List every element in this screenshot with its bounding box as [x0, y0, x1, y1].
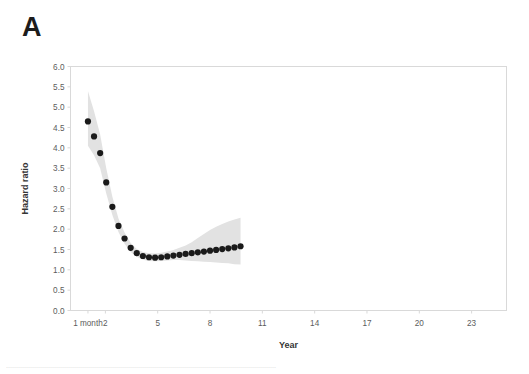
data-point: [140, 253, 146, 259]
data-point: [176, 252, 182, 258]
x-tick-label: 8: [208, 319, 213, 328]
y-tick-label: 4.0: [53, 144, 65, 153]
data-point: [164, 253, 170, 259]
caption-text: ........................................…: [6, 362, 523, 370]
y-tick-label: 0.5: [53, 286, 65, 295]
data-point: [134, 250, 140, 256]
x-axis-title: Year: [279, 340, 299, 350]
y-tick-label: 6.0: [53, 63, 65, 72]
data-point: [146, 254, 152, 260]
y-axis: 0.00.51.01.52.02.53.03.54.04.55.05.56.0H…: [20, 63, 71, 316]
x-tick-label: 1 month: [73, 319, 103, 328]
plot-background: [71, 67, 507, 311]
y-tick-label: 5.0: [53, 103, 65, 112]
data-point: [152, 255, 158, 261]
data-point: [109, 204, 115, 210]
y-tick-label: 1.0: [53, 266, 65, 275]
data-point: [128, 245, 134, 251]
x-tick-label: 5: [155, 319, 160, 328]
data-point: [213, 247, 219, 253]
data-point: [115, 223, 121, 229]
x-tick-label: 17: [362, 319, 372, 328]
x-tick-label: 11: [258, 319, 267, 328]
y-tick-label: 2.0: [53, 225, 65, 234]
data-point: [121, 235, 127, 241]
y-tick-label: 3.5: [53, 164, 65, 173]
data-point: [207, 248, 213, 254]
caption-strip: ........................................…: [6, 362, 523, 370]
data-point: [201, 248, 207, 254]
data-point: [97, 150, 103, 156]
data-point: [183, 251, 189, 257]
data-point: [189, 250, 195, 256]
y-tick-label: 1.5: [53, 246, 65, 255]
y-axis-title: Hazard ratio: [20, 162, 30, 215]
data-point: [158, 254, 164, 260]
data-point: [195, 249, 201, 255]
data-point: [170, 253, 176, 259]
data-point: [85, 118, 91, 124]
x-tick-label: 23: [467, 319, 477, 328]
data-point: [219, 246, 225, 252]
x-tick-label: 20: [415, 319, 425, 328]
y-tick-label: 4.5: [53, 124, 65, 133]
figure-panel-a: A 0.00.51.01.52.02.53.03.54.04.55.05.56.…: [0, 0, 529, 374]
x-tick-label: 14: [310, 319, 320, 328]
data-point: [237, 243, 243, 249]
y-tick-label: 0.0: [53, 307, 65, 316]
hazard-ratio-chart: 0.00.51.01.52.02.53.03.54.04.55.05.56.0H…: [0, 0, 529, 374]
data-point: [91, 133, 97, 139]
y-tick-label: 3.0: [53, 185, 65, 194]
y-tick-label: 2.5: [53, 205, 65, 214]
y-tick-label: 5.5: [53, 83, 65, 92]
data-point: [231, 244, 237, 250]
data-point: [103, 179, 109, 185]
x-axis: 1 month2581114172023Year: [73, 311, 476, 350]
x-tick-label: 2: [103, 319, 108, 328]
data-point: [225, 245, 231, 251]
